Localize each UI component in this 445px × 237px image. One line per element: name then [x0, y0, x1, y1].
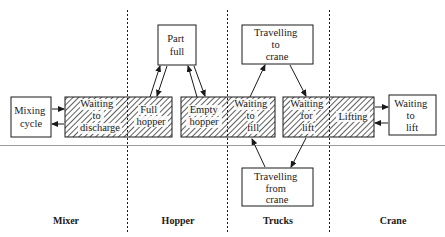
arrow-waitingtofill-to-travellingtocrane — [250, 65, 265, 97]
column-label-trucks: Trucks — [263, 215, 293, 226]
column-label-mixer: Mixer — [53, 215, 80, 226]
activity-cycle-diagram: Mixing cycle Waiting to discharge Full h… — [0, 0, 445, 237]
arrow-waitingforlift-to-travellingfromcrane — [291, 138, 306, 167]
column-label-hopper: Hopper — [162, 215, 195, 226]
label-lifting: Lifting — [338, 111, 368, 122]
state-box-part-full — [158, 25, 196, 65]
arrow-travellingfromcrane-to-waitingtofill — [252, 139, 265, 167]
arrow-travellingtocrane-to-waitingforlift — [290, 65, 306, 96]
column-label-crane: Crane — [380, 215, 407, 226]
label-empty-hopper: Empty hopper — [189, 104, 220, 127]
state-box-mixing-cycle — [11, 97, 51, 137]
